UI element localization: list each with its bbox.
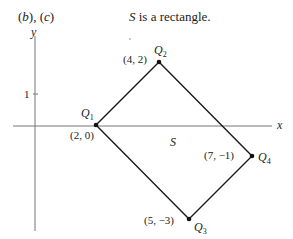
q3-label: Q3 bbox=[194, 221, 207, 236]
q2-label: Q2 bbox=[154, 44, 167, 59]
part-label: (b), (c) bbox=[18, 10, 54, 23]
point-q4 bbox=[250, 154, 255, 159]
point-q3 bbox=[187, 217, 192, 222]
q2-coord: (4, 2) bbox=[123, 54, 147, 65]
point-q2 bbox=[157, 60, 162, 65]
q3-coord: (5, −3) bbox=[144, 215, 174, 226]
q4-coord: (7, −1) bbox=[204, 150, 234, 161]
q1-label: Q1 bbox=[81, 107, 94, 122]
coordinate-diagram bbox=[0, 0, 293, 239]
q4-label: Q4 bbox=[258, 151, 271, 166]
point-q1 bbox=[94, 123, 99, 128]
q1-coord: (2, 0) bbox=[70, 130, 94, 141]
region-label: S bbox=[170, 136, 176, 148]
x-axis-label: x bbox=[277, 119, 282, 131]
statement: S is a rectangle. bbox=[129, 10, 211, 23]
y-axis-label: y bbox=[31, 26, 36, 38]
y-tick-label: 1 bbox=[24, 89, 30, 100]
